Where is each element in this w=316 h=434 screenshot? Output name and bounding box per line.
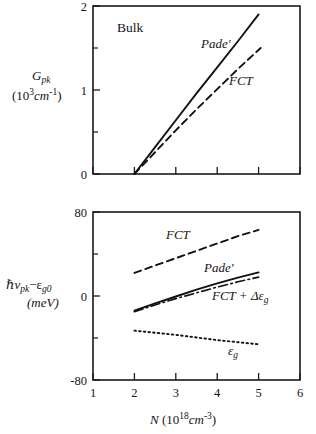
top-panel: 012 Bulk Pade' FCT Gpk (103cm-1) bbox=[12, 0, 300, 182]
label-deps-sub: g bbox=[264, 295, 269, 305]
bottom-panel-x-ticks bbox=[93, 373, 300, 380]
top-curve-label-pade: Pade' bbox=[200, 36, 231, 51]
y-axis-unit-pre: (10 bbox=[12, 88, 29, 103]
curve-label-pade-text: Pade' bbox=[200, 36, 231, 51]
curve-label-fct-deps-text: FCT + Δεg bbox=[211, 288, 269, 305]
y-axis-title-line1: Gpk bbox=[32, 68, 51, 85]
bottom-y-axis-unit: (meV) bbox=[27, 295, 59, 310]
y-tick-label: 80 bbox=[75, 206, 88, 220]
bottom-curve-label-pade: Pade' bbox=[203, 260, 234, 275]
y-axis-hbar: ℏ bbox=[6, 277, 14, 292]
top-curve-label-fct: FCT bbox=[228, 73, 254, 88]
top-panel-y-ticks bbox=[93, 6, 100, 174]
x-axis-paren-open: (10 bbox=[159, 412, 180, 427]
bottom-curve-label-eps-g: εg bbox=[228, 343, 238, 360]
bottom-panel-x-axis-title: N (1018cm-3) bbox=[149, 411, 216, 427]
label-fct-plus: FCT + bbox=[211, 288, 251, 303]
y-axis-title-line2: (103cm-1) bbox=[12, 87, 62, 103]
label-eps-sub: g bbox=[233, 350, 238, 360]
y-axis-unit-post: ) bbox=[57, 88, 61, 103]
y-tick-label: -80 bbox=[70, 374, 87, 388]
curve-label-fct-text: FCT bbox=[228, 73, 254, 88]
x-tick-label: 5 bbox=[255, 386, 261, 400]
bottom-curve-label-fct-plus-deps: FCT + Δεg bbox=[211, 288, 269, 305]
curve-label-eps-g-text: εg bbox=[228, 343, 238, 360]
x-tick-label: 2 bbox=[131, 386, 137, 400]
top-panel-y-axis-title: Gpk (103cm-1) bbox=[12, 68, 62, 103]
y-tick-label: 0 bbox=[81, 290, 87, 304]
top-panel-curves bbox=[134, 14, 260, 174]
curve-label-fct-text-bottom: FCT bbox=[165, 227, 191, 242]
bottom-panel-y-ticks bbox=[93, 212, 100, 380]
curve-fct bbox=[134, 48, 260, 174]
curve-label-pade-text-bottom: Pade' bbox=[203, 260, 234, 275]
x-axis-cm: cm bbox=[189, 412, 204, 427]
x-axis-title: N (1018cm-3) bbox=[149, 411, 216, 427]
panel-label-bulk: Bulk bbox=[117, 20, 144, 35]
y-axis-unit-cm: cm bbox=[34, 88, 49, 103]
y-tick-label: 2 bbox=[81, 0, 87, 14]
curve-pade- bbox=[134, 14, 258, 174]
y-axis-minus: − bbox=[29, 277, 36, 292]
x-tick-label: 1 bbox=[90, 386, 96, 400]
y-tick-label: 0 bbox=[81, 168, 87, 182]
y-axis-title-pk: pk bbox=[40, 75, 51, 85]
figure-container: 012 Bulk Pade' FCT Gpk (103cm-1) bbox=[0, 0, 316, 434]
bottom-panel-y-axis-title: ℏνpk−εg0 (meV) bbox=[6, 277, 59, 310]
top-panel-y-ticklabels: 012 bbox=[81, 0, 87, 182]
x-axis-paren-close: ) bbox=[212, 412, 216, 427]
label-delta-eps: Δε bbox=[250, 288, 265, 303]
y-axis-eps-sub: g0 bbox=[42, 284, 52, 294]
bottom-panel-y-ticklabels: -80080 bbox=[70, 206, 87, 388]
bottom-panel-frame bbox=[93, 212, 300, 380]
curve-e-g bbox=[134, 331, 258, 345]
figure-svg: 012 Bulk Pade' FCT Gpk (103cm-1) bbox=[0, 0, 316, 434]
x-axis-sup: 18 bbox=[179, 411, 189, 421]
x-tick-label: 6 bbox=[297, 386, 303, 400]
top-panel-x-ticks bbox=[93, 167, 300, 174]
bottom-panel: -80080 123456 FCT Pade' FCT + Δεg εg bbox=[6, 206, 303, 428]
x-tick-label: 3 bbox=[173, 386, 179, 400]
bottom-panel-x-ticklabels: 123456 bbox=[90, 386, 303, 400]
y-tick-label: 1 bbox=[81, 84, 87, 98]
curve-fct bbox=[134, 230, 258, 273]
bottom-y-axis-title-line1: ℏνpk−εg0 bbox=[6, 277, 52, 294]
bottom-curve-label-fct: FCT bbox=[165, 227, 191, 242]
x-tick-label: 4 bbox=[214, 386, 221, 400]
